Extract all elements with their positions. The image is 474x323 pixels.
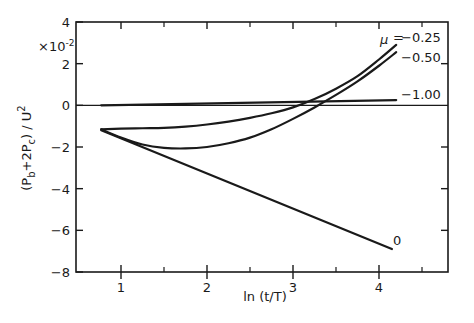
x-axis-title: ln (t/T) bbox=[243, 289, 287, 304]
series-label-neg025: −0.25 bbox=[401, 30, 441, 45]
series-label-zero: 0 bbox=[393, 233, 401, 248]
x-tick-label: 4 bbox=[375, 280, 383, 295]
legend-inline: μ = −0.25 −0.50 −1.00 0 bbox=[379, 30, 441, 248]
series-label-neg100: −1.00 bbox=[401, 87, 441, 102]
series-line-2 bbox=[101, 100, 396, 105]
y-tick-label: −8 bbox=[51, 265, 70, 280]
axis-ticks: 420−2−4−6−81234 bbox=[51, 15, 448, 295]
series-label-neg050: −0.50 bbox=[401, 50, 441, 65]
y-axis-title: (Pb+2Pc) / U2 bbox=[16, 105, 37, 190]
x-tick-label: 3 bbox=[289, 280, 297, 295]
y-tick-label: 2 bbox=[62, 57, 70, 72]
legend-mu-label: μ bbox=[379, 32, 388, 47]
x-tick-label: 1 bbox=[117, 280, 125, 295]
y-tick-label: −2 bbox=[51, 140, 70, 155]
y-tick-label: 4 bbox=[62, 15, 70, 30]
y-tick-label: −6 bbox=[51, 223, 70, 238]
data-series bbox=[101, 45, 396, 249]
y-multiplier: ×10-2 bbox=[38, 38, 74, 54]
y-tick-label: 0 bbox=[62, 98, 70, 113]
series-line-0 bbox=[101, 45, 396, 129]
y-tick-label: −4 bbox=[51, 182, 70, 197]
chart: 420−2−4−6−81234 ×10-2 (Pb+2Pc) / U2 ln (… bbox=[0, 0, 474, 323]
series-line-3 bbox=[101, 130, 392, 249]
x-tick-label: 2 bbox=[203, 280, 211, 295]
